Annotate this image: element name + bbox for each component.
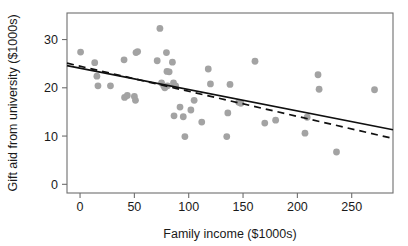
- y-tick-label: 30: [44, 33, 58, 47]
- fit-lines-group: [67, 63, 393, 138]
- data-points-group: [77, 25, 378, 155]
- data-point: [227, 81, 234, 88]
- y-tick-label: 0: [51, 178, 58, 192]
- data-point: [261, 120, 268, 127]
- y-tick-label: 10: [44, 130, 58, 144]
- x-axis-title: Family income ($1000s): [163, 227, 296, 241]
- data-point: [95, 82, 102, 89]
- chart-canvas: 0501001502002500102030Family income ($10…: [0, 0, 408, 246]
- x-tick-label: 250: [341, 200, 362, 214]
- data-point: [124, 92, 131, 99]
- data-point: [107, 82, 114, 89]
- y-axis: 0102030: [44, 33, 67, 192]
- data-point: [163, 49, 170, 56]
- data-point: [154, 57, 161, 64]
- data-point: [198, 119, 205, 126]
- x-axis: 050100150200250: [77, 193, 363, 214]
- x-tick-label: 200: [287, 200, 308, 214]
- data-point: [302, 130, 309, 137]
- data-point: [205, 66, 212, 73]
- data-point: [121, 56, 128, 63]
- data-point: [180, 113, 187, 120]
- data-point: [93, 73, 100, 80]
- plot-frame: [67, 13, 393, 193]
- y-tick-label: 20: [44, 81, 58, 95]
- data-point: [315, 71, 322, 78]
- data-point: [77, 49, 84, 56]
- data-point: [224, 109, 231, 116]
- data-point: [223, 133, 230, 140]
- data-point: [316, 86, 323, 93]
- robust-fit-dashed: [67, 63, 393, 138]
- data-point: [169, 59, 176, 66]
- x-tick-label: 50: [127, 200, 141, 214]
- x-tick-label: 100: [178, 200, 199, 214]
- data-point: [134, 48, 141, 55]
- data-point: [132, 97, 139, 104]
- data-point: [252, 58, 259, 65]
- x-tick-label: 0: [77, 200, 84, 214]
- data-point: [272, 117, 279, 124]
- data-point: [182, 133, 189, 140]
- data-point: [333, 149, 340, 156]
- data-point: [371, 86, 378, 93]
- scatter-plot-figure: 0501001502002500102030Family income ($10…: [0, 0, 408, 246]
- data-point: [207, 81, 214, 88]
- data-point: [157, 25, 164, 32]
- data-point: [177, 104, 184, 111]
- data-point: [187, 107, 194, 114]
- data-point: [166, 68, 173, 75]
- data-point: [191, 97, 198, 104]
- data-point: [171, 112, 178, 119]
- y-axis-title: Gift aid from university ($1000s): [6, 14, 20, 191]
- x-tick-label: 150: [233, 200, 254, 214]
- data-point: [91, 59, 98, 66]
